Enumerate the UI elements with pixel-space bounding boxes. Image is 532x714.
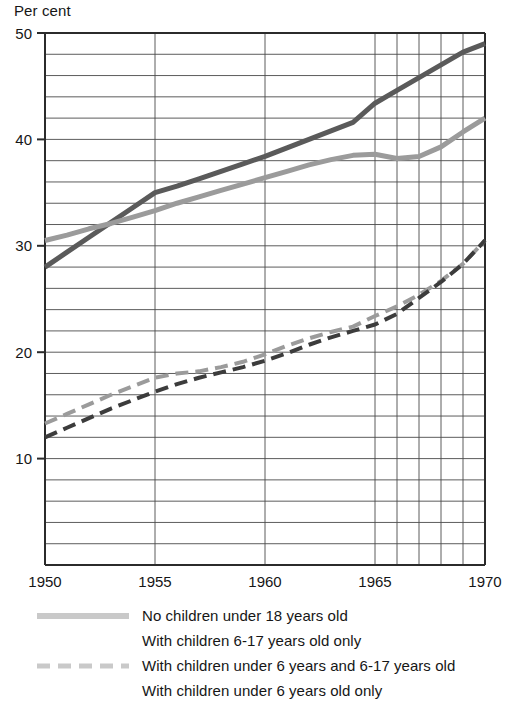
y-tick-label: 50 [15, 25, 32, 42]
legend-swatch-thick-gray-solid [37, 609, 129, 623]
legend-label: With children under 6 years and 6-17 yea… [142, 657, 455, 674]
x-tick-label: 1970 [468, 573, 501, 590]
legend-item: With children 6-17 years old only [0, 628, 532, 653]
y-tick-label: 20 [15, 344, 32, 361]
legend-label: With children 6-17 years old only [142, 632, 361, 649]
x-tick-label: 1950 [28, 573, 61, 590]
legend-label: With children under 6 years old only [142, 682, 382, 699]
y-tick-label: 40 [15, 131, 32, 148]
chart-root: Per cent 504030201019501955196019651970 … [0, 0, 532, 714]
legend-item: No children under 18 years old [0, 603, 532, 628]
legend-item: With children under 6 years old only [0, 678, 532, 703]
line-chart-svg: 504030201019501955196019651970 [0, 0, 532, 600]
y-tick-label: 10 [15, 450, 32, 467]
legend-item: With children under 6 years and 6-17 yea… [0, 653, 532, 678]
chart-legend: No children under 18 years oldWith child… [0, 603, 532, 703]
legend-swatch-none [37, 684, 129, 698]
x-tick-label: 1960 [248, 573, 281, 590]
x-tick-label: 1965 [358, 573, 391, 590]
legend-label: No children under 18 years old [142, 607, 348, 624]
legend-swatch-gray-dashed [37, 659, 129, 673]
y-tick-label: 30 [15, 237, 32, 254]
x-tick-label: 1955 [138, 573, 171, 590]
plot-area: 504030201019501955196019651970 [0, 0, 532, 600]
legend-swatch-none [37, 634, 129, 648]
